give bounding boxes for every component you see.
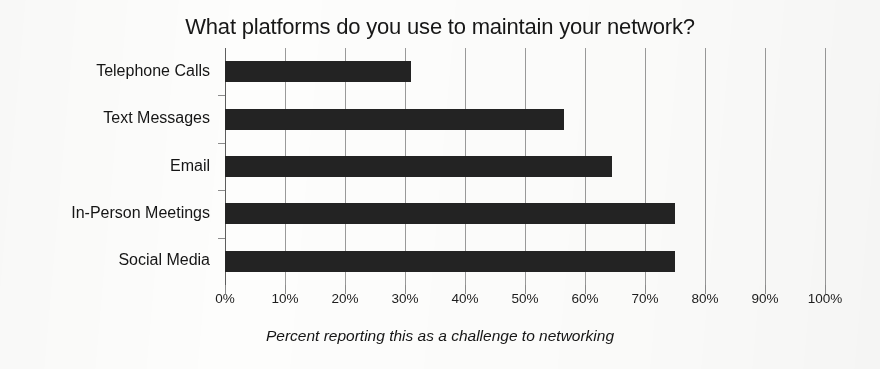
- x-tick-label: 40%: [451, 291, 478, 306]
- chart-title: What platforms do you use to maintain yo…: [0, 14, 880, 40]
- x-tick-label: 60%: [571, 291, 598, 306]
- x-tick-label: 20%: [331, 291, 358, 306]
- plot-area: [225, 48, 825, 285]
- bars-group: [225, 48, 825, 285]
- category-tick: [218, 143, 225, 144]
- x-tick-label: 50%: [511, 291, 538, 306]
- category-label: In-Person Meetings: [10, 204, 210, 222]
- bar: [225, 251, 675, 272]
- bar: [225, 156, 612, 177]
- category-label: Telephone Calls: [10, 62, 210, 80]
- category-tick: [218, 238, 225, 239]
- category-label: Text Messages: [10, 109, 210, 127]
- x-axis-caption: Percent reporting this as a challenge to…: [0, 327, 880, 345]
- bar: [225, 203, 675, 224]
- bar: [225, 61, 411, 82]
- x-tick-label: 10%: [271, 291, 298, 306]
- category-label: Social Media: [10, 251, 210, 269]
- category-tick: [218, 190, 225, 191]
- x-tick-label: 90%: [751, 291, 778, 306]
- gridline-100: [825, 48, 826, 285]
- x-tick-label: 70%: [631, 291, 658, 306]
- x-tick-label: 30%: [391, 291, 418, 306]
- x-tick-label: 0%: [215, 291, 235, 306]
- bar-chart: What platforms do you use to maintain yo…: [0, 0, 880, 369]
- x-tick-label: 80%: [691, 291, 718, 306]
- x-tick-label: 100%: [808, 291, 843, 306]
- bar: [225, 109, 564, 130]
- category-label: Email: [10, 157, 210, 175]
- category-tick: [218, 95, 225, 96]
